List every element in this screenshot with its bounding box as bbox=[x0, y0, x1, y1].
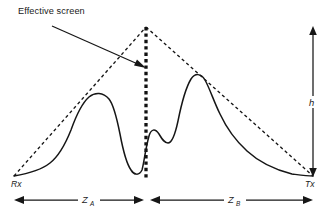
arrow-right-down-icon bbox=[134, 60, 146, 69]
effective-screen-label: Effective screen bbox=[18, 6, 85, 16]
double-arrow-horizontal-icon-zb-right bbox=[303, 196, 313, 204]
dim-label-za: Z bbox=[81, 194, 88, 205]
diagram-canvas: Effective screen Rx Tx h Z A Z B bbox=[0, 0, 335, 216]
line-of-sight-left bbox=[14, 27, 146, 176]
node-label-rx: Rx bbox=[11, 179, 22, 189]
callout-leader-line bbox=[52, 26, 140, 65]
dim-label-zb: Z bbox=[227, 194, 234, 205]
node-label-tx: Tx bbox=[305, 179, 315, 189]
figure-root: Effective screen Rx Tx h Z A Z B bbox=[0, 0, 335, 216]
double-arrow-vertical-icon-up bbox=[309, 26, 317, 35]
dim-label-zb-subscript: B bbox=[236, 200, 241, 207]
height-label: h bbox=[309, 97, 314, 108]
double-arrow-horizontal-icon-za-right bbox=[134, 196, 144, 204]
double-arrow-horizontal-icon-za-left bbox=[14, 196, 24, 204]
dim-label-za-subscript: A bbox=[89, 200, 94, 207]
line-of-sight-right bbox=[146, 27, 313, 176]
double-arrow-horizontal-icon-zb-left bbox=[150, 196, 160, 204]
